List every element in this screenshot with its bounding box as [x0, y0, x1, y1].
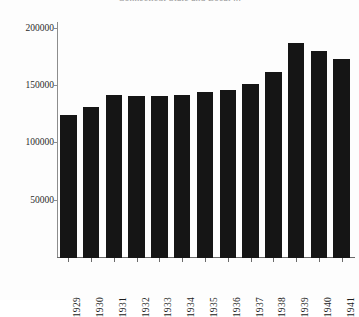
bar: [151, 96, 167, 258]
x-axis-tick-label: 1933: [163, 297, 173, 317]
x-axis-tick-mark: [251, 258, 252, 262]
x-axis-tick-mark: [205, 258, 206, 262]
y-axis-tick-label: 50000: [2, 195, 54, 205]
x-axis-tick-mark: [182, 258, 183, 262]
x-axis-tick-label: 1934: [186, 297, 196, 317]
x-axis-tick-group: 1929193019311932193319341935193619371938…: [57, 258, 355, 300]
x-axis-tick-mark: [296, 258, 297, 262]
y-axis-tick-label: 150000: [2, 80, 54, 90]
bar: [106, 95, 122, 258]
x-axis-tick-label: 1941: [346, 297, 356, 317]
x-axis-tick-label: 1938: [277, 297, 287, 317]
y-axis-tick-label: 200000: [2, 23, 54, 33]
bar: [60, 115, 76, 258]
y-axis-tick-group: 50000100000150000200000: [0, 0, 54, 300]
x-axis-tick-mark: [137, 258, 138, 262]
bar: [174, 95, 190, 258]
x-axis-tick-label: 1939: [300, 297, 310, 317]
x-axis-tick-label: 1935: [209, 297, 219, 317]
bar: [128, 96, 144, 258]
x-axis-tick-label: 1932: [141, 297, 151, 317]
x-axis-tick-label: 1940: [323, 297, 333, 317]
bar: [83, 107, 99, 258]
x-axis-tick-mark: [91, 258, 92, 262]
x-axis-tick-mark: [114, 258, 115, 262]
x-axis-tick-label: 1936: [232, 297, 242, 317]
x-axis-tick-mark: [228, 258, 229, 262]
x-axis-tick-mark: [319, 258, 320, 262]
x-axis-tick-label: 1931: [118, 297, 128, 317]
bar: [242, 84, 258, 258]
bar: [197, 92, 213, 258]
y-axis-tick-label: 100000: [2, 137, 54, 147]
x-axis-tick-label: 1929: [72, 297, 82, 317]
bar: [311, 51, 327, 258]
bar: [288, 43, 304, 259]
bar: [220, 90, 236, 259]
x-axis-tick-label: 1937: [255, 297, 265, 317]
plot-area: [57, 22, 353, 258]
x-axis-tick-mark: [273, 258, 274, 262]
x-axis-tick-label: 1930: [95, 297, 105, 317]
x-axis-tick-mark: [342, 258, 343, 262]
bar: [333, 59, 349, 258]
x-axis-tick-mark: [68, 258, 69, 262]
x-axis-tick-mark: [159, 258, 160, 262]
bar: [265, 72, 281, 258]
